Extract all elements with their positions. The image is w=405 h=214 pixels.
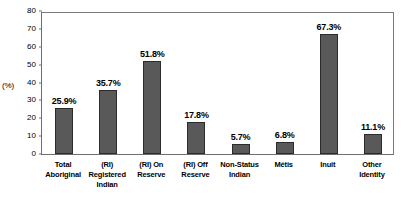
x-axis-category-label: (RI) Registered Indian [85, 160, 129, 190]
x-axis-category-label: Other Identity [350, 160, 394, 180]
bar[interactable] [364, 134, 382, 154]
x-axis-category-label: Inuit [306, 160, 350, 170]
y-axis-tick-label: 30 [27, 95, 36, 104]
bar[interactable] [55, 108, 73, 154]
x-axis-category-label: (RI) Off Reserve [173, 160, 217, 180]
y-axis-tick-label: 20 [27, 113, 36, 122]
x-axis-category-label: Métis [262, 160, 306, 170]
bar-value-label: 5.7% [231, 132, 251, 142]
y-axis-tick-label: 50 [27, 59, 36, 68]
bar-slot: 5.7% [219, 13, 263, 154]
y-axis-tick-mark [39, 11, 42, 12]
bar-value-label: 11.1% [361, 122, 385, 132]
bar-slot: 67.3% [307, 13, 351, 154]
bar[interactable] [232, 144, 250, 154]
bar-slot: 17.8% [174, 13, 218, 154]
bar-slot: 35.7% [86, 13, 130, 154]
bar-value-label: 25.9% [52, 96, 77, 106]
bar-slot: 25.9% [42, 13, 86, 154]
bar-value-label: 35.7% [96, 78, 121, 88]
bar-value-label: 67.3% [317, 22, 342, 32]
x-axis-category-label: (RI) On Reserve [129, 160, 173, 180]
bar-slot: 6.8% [263, 13, 307, 154]
bar-chart: (%) 01020304050607080 25.9%35.7%51.8%17.… [0, 0, 405, 214]
y-axis-title: (%) [2, 81, 14, 90]
bar[interactable] [187, 122, 205, 154]
bar[interactable] [320, 34, 338, 154]
y-axis-tick-label: 40 [27, 77, 36, 86]
y-axis-tick-label: 10 [27, 131, 36, 140]
bar[interactable] [143, 61, 161, 154]
x-axis-category-label: Non-Status Indian [218, 160, 262, 180]
y-axis-tick-label: 70 [27, 23, 36, 32]
bar[interactable] [99, 90, 117, 154]
y-axis-tick-label: 60 [27, 41, 36, 50]
x-axis-category-label: Total Aboriginal [41, 160, 85, 180]
bar-value-label: 6.8% [275, 130, 295, 140]
bar[interactable] [276, 142, 294, 154]
bar-value-label: 17.8% [184, 110, 209, 120]
bar-value-label: 51.8% [140, 49, 165, 59]
y-axis-tick-label: 0 [32, 149, 36, 158]
y-axis-tick-label: 80 [27, 6, 36, 15]
bar-slot: 51.8% [130, 13, 174, 154]
plot-area: 01020304050607080 25.9%35.7%51.8%17.8%5.… [41, 12, 394, 155]
bar-slot: 11.1% [351, 13, 395, 154]
